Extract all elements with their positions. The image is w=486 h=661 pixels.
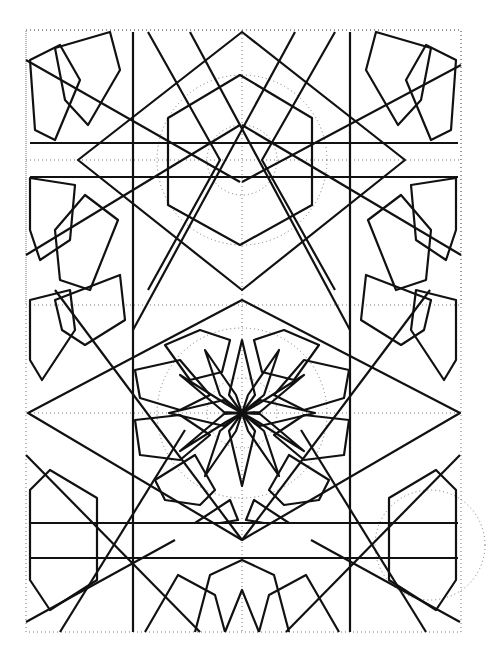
strapwork-lines <box>26 32 461 632</box>
geometric-pattern-drawing <box>0 0 486 661</box>
construction-guides <box>26 30 485 632</box>
